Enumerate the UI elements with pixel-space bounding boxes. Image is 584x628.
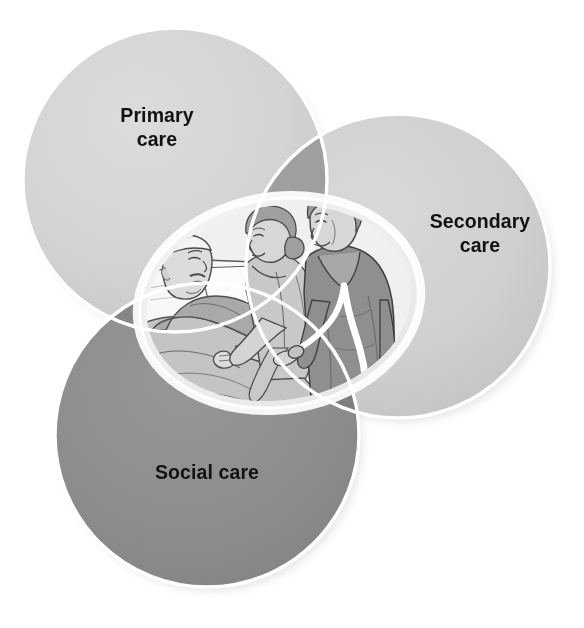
venn-diagram-canvas	[0, 0, 584, 628]
venn-diagram-figure: Primary care Secondary care Social care	[0, 0, 584, 628]
